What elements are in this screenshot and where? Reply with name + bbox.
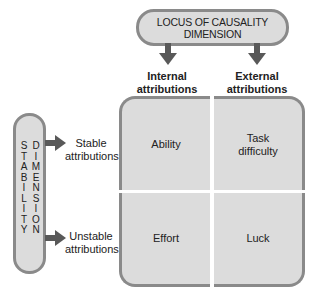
column-header-internal-line2: attributions <box>122 83 212 96</box>
locus-title-line2: DIMENSION <box>184 28 242 40</box>
stability-letter: I <box>23 204 26 215</box>
arrow-down-external-icon <box>248 43 266 67</box>
column-header-external-line1: External <box>212 70 302 83</box>
column-header-internal-line1: Internal <box>122 70 212 83</box>
row-header-stable-line2: attributions <box>47 150 117 163</box>
stability-letter: A <box>21 162 28 173</box>
row-header-stable: Stable attributions <box>47 137 117 163</box>
cell-luck: Luck <box>214 193 305 287</box>
cell-ability: Ability <box>119 96 210 190</box>
dimension-letter: M <box>32 162 40 173</box>
stability-letter: S <box>21 141 28 152</box>
dimension-letter: I <box>35 204 38 215</box>
dimension-letter: N <box>32 225 39 236</box>
stability-word: S T A B I L I T Y <box>19 141 29 236</box>
dimension-word: D I M E N S I O N <box>31 141 41 236</box>
dimension-letter: D <box>32 141 39 152</box>
cell-ability-label: Ability <box>151 138 180 151</box>
arrow-down-internal-icon <box>159 43 177 67</box>
column-header-external: External attributions <box>212 70 302 96</box>
row-header-unstable-line2: attributions <box>47 243 117 256</box>
stability-letter: Y <box>21 225 28 236</box>
cell-effort-label: Effort <box>153 232 179 245</box>
stability-dimension-box: S T A B I L I T Y D I M E N S I O N <box>13 113 46 274</box>
cell-task-difficulty-line1: Task <box>238 132 278 145</box>
row-header-unstable: Unstable attributions <box>47 230 117 256</box>
cell-task-difficulty: Task difficulty <box>214 96 305 190</box>
column-header-external-line2: attributions <box>212 83 302 96</box>
cell-luck-label: Luck <box>246 232 269 245</box>
cell-task-difficulty-line2: difficulty <box>238 145 278 158</box>
row-header-stable-line1: Stable <box>47 137 117 150</box>
column-header-internal: Internal attributions <box>122 70 212 96</box>
stability-letter: I <box>23 183 26 194</box>
dimension-letter: N <box>32 183 39 194</box>
locus-of-causality-dimension-box: LOCUS OF CAUSALITY DIMENSION <box>136 9 289 46</box>
cell-effort: Effort <box>119 193 210 287</box>
locus-title-line1: LOCUS OF CAUSALITY <box>157 16 268 28</box>
row-header-unstable-line1: Unstable <box>47 230 117 243</box>
